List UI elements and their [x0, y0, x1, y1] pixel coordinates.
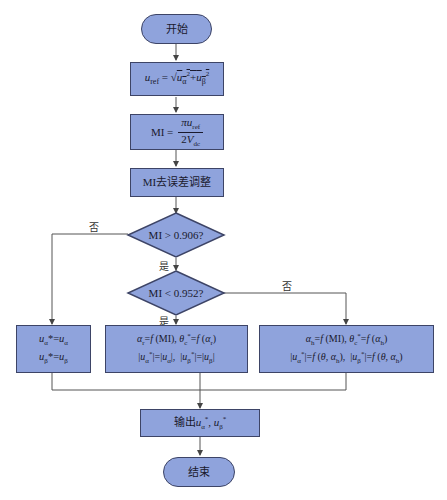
box-mid-line1: αr=f (MI), θc*=f (αr): [137, 331, 216, 349]
mi-node: MI = πuref 2Vdc: [130, 114, 224, 150]
box-right-line2: |uα*|=f (θ, αh), |uβ*|=f (θ, αh): [290, 349, 402, 367]
decision1-text: MI > 0.906?: [128, 213, 224, 257]
box-left-line2: uβ*=uβ: [39, 349, 68, 367]
mi-adjust-label: MI去误差调整: [143, 174, 211, 191]
mi-fraction: πuref 2Vdc: [178, 116, 203, 148]
uref-node: uref = √uα2+uβ2: [130, 62, 224, 96]
end-label: 结束: [188, 464, 210, 481]
box-mid-line2: |uα*|=|uα|, |uβ*|=|uβ|: [138, 349, 214, 367]
output-label: 输出uα*, uβ*: [174, 414, 227, 433]
mi-lhs: MI =: [151, 124, 173, 141]
start-label: 开始: [166, 21, 188, 38]
box-middle: αr=f (MI), θc*=f (αr) |uα*|=|uα|, |uβ*|=…: [105, 325, 248, 373]
decision1-yes-label: 是: [159, 258, 169, 273]
decision2-text: MI < 0.952?: [128, 271, 224, 315]
output-node: 输出uα*, uβ*: [140, 409, 260, 437]
box-left: uα*=uα uβ*=uβ: [16, 325, 91, 373]
box-right-line1: αh=f (MI), θc*=f (αh): [306, 331, 387, 349]
uref-formula: uref = √uα2+uβ2: [145, 69, 210, 88]
box-left-line1: uα*=uα: [39, 331, 68, 349]
decision1-no-label: 否: [89, 219, 99, 234]
end-node: 结束: [163, 457, 235, 487]
box-right: αh=f (MI), θc*=f (αh) |uα*|=f (θ, αh), |…: [259, 325, 434, 373]
start-node: 开始: [141, 14, 212, 44]
mi-adjust-node: MI去误差调整: [130, 168, 224, 197]
decision2-no-label: 否: [282, 278, 292, 293]
